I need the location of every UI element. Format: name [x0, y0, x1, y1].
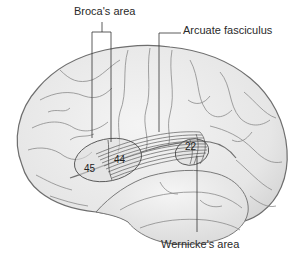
brodmann-45-label: 45: [84, 163, 96, 174]
brodmann-44-label: 44: [114, 154, 126, 165]
wernicke-area-label: Wernicke's area: [161, 239, 239, 250]
arcuate-fasciculus-label: Arcuate fasciculus: [183, 25, 272, 36]
brain-illustration: 45 44 22: [0, 0, 301, 261]
brodmann-22-label: 22: [185, 141, 197, 152]
broca-area-label: Broca's area: [74, 6, 135, 17]
